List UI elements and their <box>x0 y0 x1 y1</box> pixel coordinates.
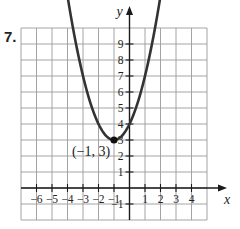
x-axis-label: x <box>223 192 231 207</box>
x-tick-label: −2 <box>92 193 104 205</box>
y-axis-arrow-icon <box>126 6 133 15</box>
x-tick-label: −3 <box>77 193 89 205</box>
x-tick-label: 2 <box>158 193 164 205</box>
y-axis-label: y <box>115 4 124 19</box>
y-tick-label: 7 <box>118 70 124 82</box>
vertex-label: (−1, 3) <box>72 144 111 160</box>
y-tick-label: −1 <box>111 198 123 210</box>
x-axis-arrow-icon <box>218 185 227 192</box>
y-tick-label: 4 <box>118 118 124 130</box>
y-tick-label: 1 <box>118 166 124 178</box>
parabola-chart: −6−5−4−3−2−11234−1123456789 (−1, 3) x y <box>0 0 240 229</box>
vertex-point <box>110 136 117 143</box>
x-tick-label: 3 <box>173 193 179 205</box>
x-tick-label: −4 <box>61 193 73 205</box>
y-tick-label: 6 <box>118 86 124 98</box>
y-tick-label: 9 <box>118 38 124 50</box>
y-tick-label: 8 <box>118 54 124 66</box>
x-tick-label: 1 <box>142 193 148 205</box>
y-tick-label: 5 <box>118 102 124 114</box>
x-tick-label: −5 <box>46 193 58 205</box>
x-tick-label: −6 <box>30 193 42 205</box>
y-tick-label: 2 <box>118 150 124 162</box>
x-tick-label: 4 <box>189 193 195 205</box>
